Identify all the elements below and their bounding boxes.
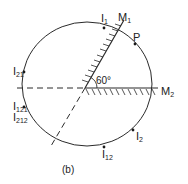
label-angle: 60° <box>96 75 111 86</box>
point-i2-dot <box>132 129 135 132</box>
label-i21: I21 <box>13 65 24 78</box>
label-i2: I2 <box>136 130 143 143</box>
m1-dashed-extension <box>51 88 85 146</box>
label-p: P <box>133 31 140 43</box>
point-i1-dot <box>103 27 106 30</box>
label-m2: M2 <box>161 85 174 98</box>
label-m1: M1 <box>118 11 131 24</box>
label-i1: I1 <box>101 12 108 25</box>
mirror-m2 <box>85 88 158 95</box>
mirror-images-diagram: I1 M1 P I21 60° M2 I121 I212 I2 I12 (b) <box>0 0 188 184</box>
figure-caption: (b) <box>62 164 74 175</box>
point-p-dot <box>134 43 137 46</box>
label-i12: I12 <box>102 148 113 161</box>
